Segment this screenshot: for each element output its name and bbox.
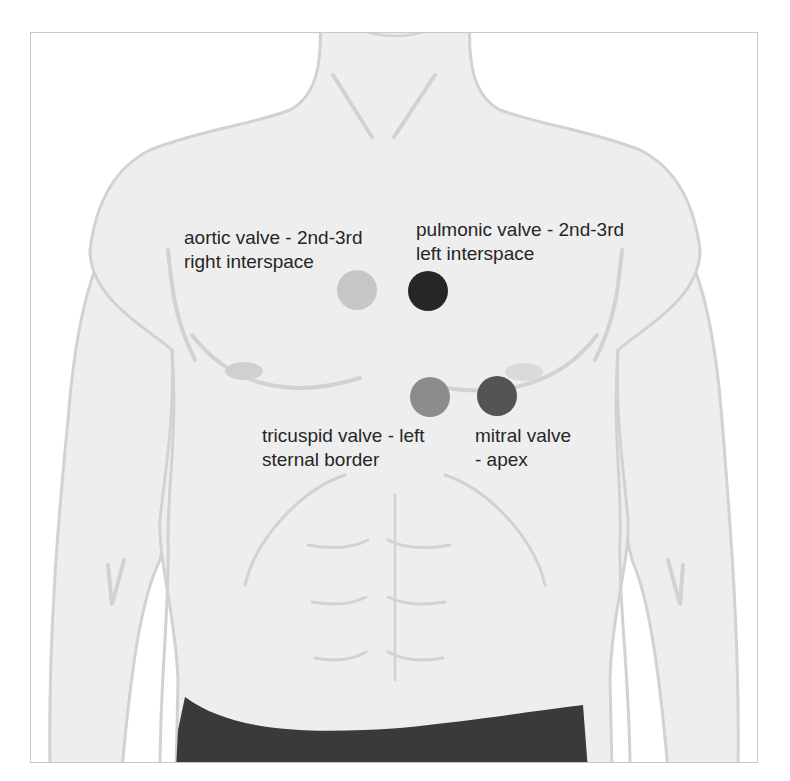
pulmonic-label-line2: left interspace <box>416 242 624 266</box>
aortic-label-line1: aortic valve - 2nd-3rd <box>184 226 362 250</box>
tricuspid-valve-label: tricuspid valve - left sternal border <box>262 424 425 472</box>
pulmonic-valve-marker <box>408 271 448 311</box>
mitral-valve-marker <box>477 376 517 416</box>
nipple-left <box>505 363 543 381</box>
tricuspid-valve-marker <box>410 377 450 417</box>
pulmonic-label-line1: pulmonic valve - 2nd-3rd <box>416 218 624 242</box>
torso-illustration <box>0 0 790 781</box>
tricuspid-label-line1: tricuspid valve - left <box>262 424 425 448</box>
aortic-label-line2: right interspace <box>184 250 362 274</box>
aortic-valve-label: aortic valve - 2nd-3rd right interspace <box>184 226 362 274</box>
tricuspid-label-line2: sternal border <box>262 448 425 472</box>
pulmonic-valve-label: pulmonic valve - 2nd-3rd left interspace <box>416 218 624 266</box>
mitral-valve-label: mitral valve - apex <box>475 424 571 472</box>
mitral-label-line1: mitral valve <box>475 424 571 448</box>
nipple-right <box>225 362 263 380</box>
aortic-valve-marker <box>337 270 377 310</box>
mitral-label-line2: - apex <box>475 448 571 472</box>
